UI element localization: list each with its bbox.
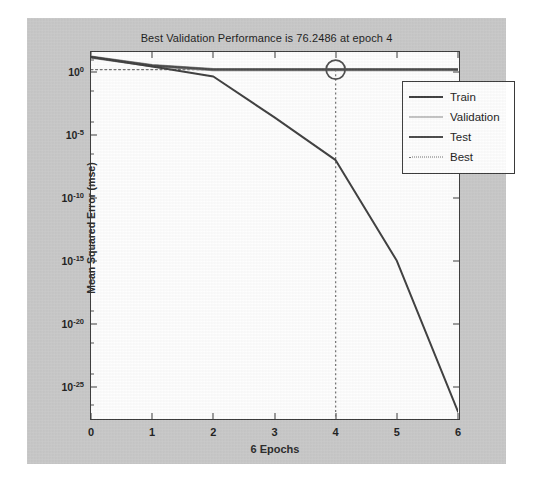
- x-tick-label: 5: [394, 426, 400, 438]
- legend-swatch-test-icon: [409, 132, 443, 142]
- legend-label: Test: [450, 131, 471, 143]
- legend-label: Validation: [450, 111, 500, 123]
- y-tick-label: 100: [68, 66, 84, 78]
- x-tick-label: 0: [88, 426, 94, 438]
- y-tick-label: 10-10: [61, 192, 84, 204]
- legend-swatch-validation-icon: [409, 112, 443, 122]
- legend-swatch-best-icon: [409, 152, 443, 162]
- legend-item-validation[interactable]: Validation: [409, 107, 508, 127]
- x-tick-label: 1: [149, 426, 155, 438]
- axes-frame: Mean Squared Error (mse) 6 Epochs 10010-…: [90, 51, 460, 420]
- matlab-training-performance-figure: Best Validation Performance is 76.2486 a…: [0, 0, 551, 482]
- x-tick-label: 4: [333, 426, 339, 438]
- x-tick-label: 6: [455, 426, 461, 438]
- series-line-validation: [91, 57, 458, 70]
- legend-swatch-train-icon: [409, 92, 443, 102]
- y-tick-label: 10-15: [61, 255, 84, 267]
- plot-title: Best Validation Performance is 76.2486 a…: [27, 32, 506, 44]
- figure-canvas: Best Validation Performance is 76.2486 a…: [27, 18, 506, 464]
- x-tick-label: 2: [210, 426, 216, 438]
- legend: TrainValidationTestBest: [402, 81, 515, 174]
- y-tick-label: 10-25: [61, 381, 84, 393]
- legend-item-train[interactable]: Train: [409, 87, 508, 107]
- x-axis-label: 6 Epochs: [91, 443, 459, 455]
- y-tick-label: 10-5: [66, 129, 84, 141]
- legend-label: Train: [450, 91, 476, 103]
- x-tick-label: 3: [271, 426, 277, 438]
- y-tick-label: 10-20: [61, 318, 84, 330]
- legend-label: Best: [450, 151, 473, 163]
- legend-item-best[interactable]: Best: [409, 147, 508, 167]
- legend-item-test[interactable]: Test: [409, 127, 508, 147]
